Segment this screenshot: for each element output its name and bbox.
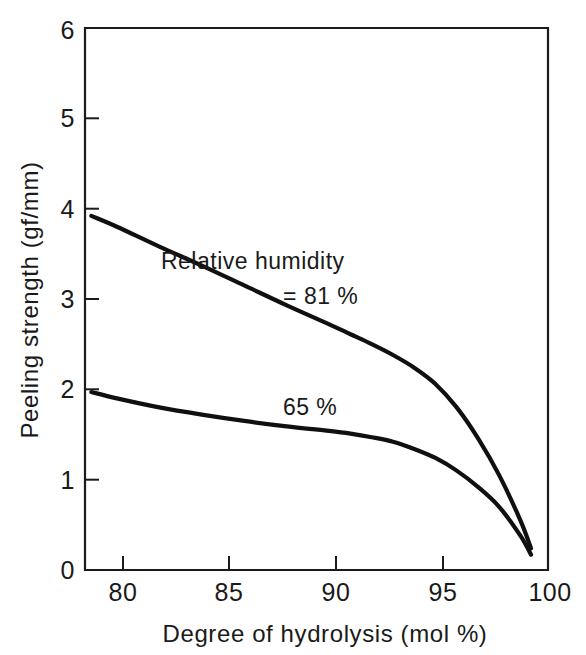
y-axis-ticks xyxy=(85,28,99,570)
x-tick-label-100: 100 xyxy=(528,578,571,606)
x-axis-ticks xyxy=(123,556,443,570)
annotation-81-percent: = 81 % xyxy=(283,283,358,309)
y-tick-label-4: 4 xyxy=(61,195,75,223)
x-axis-tick-labels: 80 85 90 95 100 xyxy=(109,578,572,606)
peeling-strength-chart: 0 1 2 3 4 5 6 80 85 90 95 100 Degree of … xyxy=(0,0,586,655)
figure-container: 0 1 2 3 4 5 6 80 85 90 95 100 Degree of … xyxy=(0,0,586,655)
annotation-relative-humidity: Relative humidity xyxy=(161,248,345,274)
x-tick-label-85: 85 xyxy=(215,578,244,606)
annotation-65-percent: 65 % xyxy=(283,394,337,420)
y-tick-label-5: 5 xyxy=(61,104,75,132)
x-tick-label-90: 90 xyxy=(322,578,351,606)
y-tick-label-3: 3 xyxy=(61,285,75,313)
y-tick-label-0: 0 xyxy=(61,556,75,584)
y-tick-label-6: 6 xyxy=(61,16,75,44)
y-axis-tick-labels: 0 1 2 3 4 5 6 xyxy=(61,16,75,584)
x-tick-label-80: 80 xyxy=(109,578,138,606)
y-axis-title: Peeling strength (gf/mm) xyxy=(16,161,43,438)
x-axis-title: Degree of hydrolysis (mol %) xyxy=(163,620,488,647)
y-tick-label-1: 1 xyxy=(61,466,75,494)
y-tick-label-2: 2 xyxy=(61,375,75,403)
x-tick-label-95: 95 xyxy=(429,578,458,606)
